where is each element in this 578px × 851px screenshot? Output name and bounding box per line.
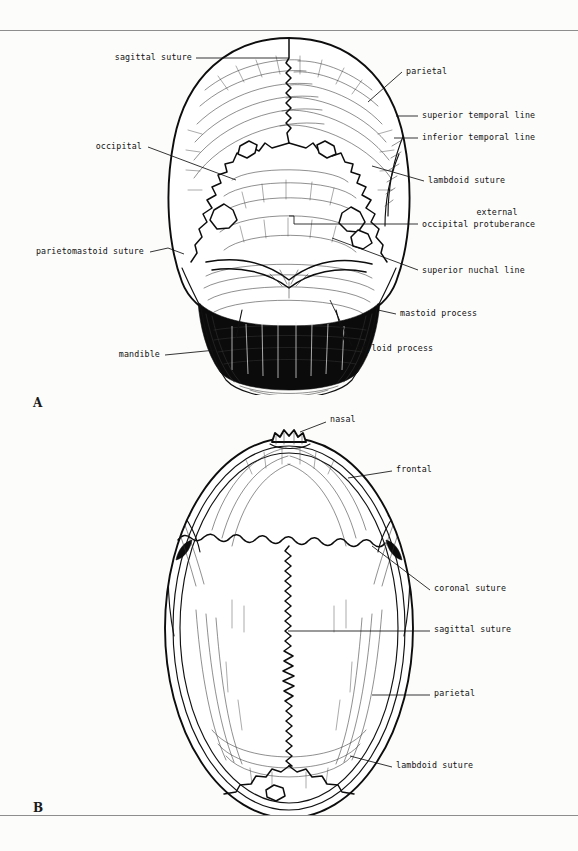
label-coronal-suture-b: coronal suture bbox=[434, 583, 506, 594]
label-frontal-b: frontal bbox=[396, 464, 432, 475]
panel-letter-b: B bbox=[33, 801, 43, 815]
label-sagittal-suture-a: sagittal suture bbox=[100, 52, 192, 63]
plate-page: sagittal suture occipital parietomastoid… bbox=[0, 0, 578, 851]
label-external-occipital-protuberance-line2-a: occipital protuberance bbox=[422, 219, 535, 230]
label-lambdoid-suture-b: lambdoid suture bbox=[396, 760, 473, 771]
label-lambdoid-suture-a: lambdoid suture bbox=[428, 175, 505, 186]
label-occipital-a: occipital bbox=[80, 141, 142, 152]
label-inferior-temporal-line-a: inferior temporal line bbox=[422, 132, 535, 143]
label-mandible-a: mandible bbox=[100, 349, 160, 360]
label-parietal-a: parietal bbox=[406, 66, 447, 77]
label-sagittal-suture-b: sagittal suture bbox=[434, 624, 511, 635]
label-parietal-b: parietal bbox=[434, 688, 475, 699]
page-rule-bottom bbox=[0, 815, 578, 816]
label-mastoid-process-a: mastoid process bbox=[400, 308, 477, 319]
label-superior-temporal-line-a: superior temporal line bbox=[422, 110, 535, 121]
figure-b-illustration bbox=[0, 400, 578, 815]
label-superior-nuchal-line-a: superior nuchal line bbox=[422, 265, 525, 276]
label-nasal-b: nasal bbox=[330, 414, 356, 425]
label-styloid-process-a: styloid process bbox=[356, 343, 433, 354]
label-parietomastoid-suture-a: parietomastoid suture bbox=[18, 246, 144, 257]
label-external-occipital-protuberance-line1-a: external bbox=[422, 207, 572, 218]
